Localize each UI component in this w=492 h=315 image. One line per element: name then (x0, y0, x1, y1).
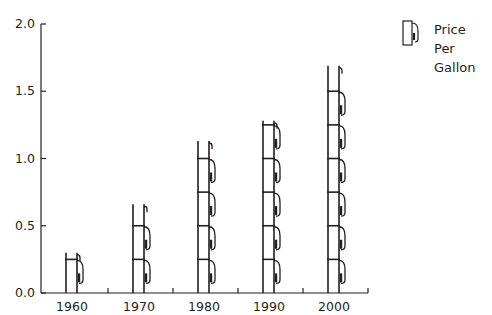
bar-1980 (197, 141, 215, 293)
x-tick-label: 2000 (318, 299, 350, 314)
y-tick-label: 0.0 (15, 285, 35, 300)
bars (65, 66, 345, 293)
legend-label-line1: Price (434, 20, 475, 39)
x-tick-label: 1970 (123, 299, 155, 314)
bar-1970 (132, 204, 150, 293)
legend-label-line3: Gallon (434, 58, 475, 77)
x-tick-label: 1960 (56, 299, 88, 314)
bar-1990 (262, 121, 280, 293)
y-tick-label: 2.0 (15, 16, 35, 31)
legend-label-line2: Per (434, 39, 475, 58)
x-axis-labels: 19601970198019902000 (56, 299, 350, 314)
y-tick-label: 1.5 (15, 83, 35, 98)
y-tick-label: 1.0 (15, 151, 35, 166)
bar-2000 (327, 66, 345, 293)
x-tick-label: 1980 (188, 299, 220, 314)
y-tick-label: 0.5 (15, 218, 35, 233)
pictograph-chart: 0.00.51.01.52.0 19601970198019902000 (0, 0, 492, 315)
x-tick-label: 1990 (253, 299, 285, 314)
y-axis-labels: 0.00.51.01.52.0 (15, 16, 35, 300)
bar-1960 (65, 253, 83, 293)
gas-pump-icon (403, 21, 418, 45)
legend-label: Price Per Gallon (434, 20, 475, 77)
